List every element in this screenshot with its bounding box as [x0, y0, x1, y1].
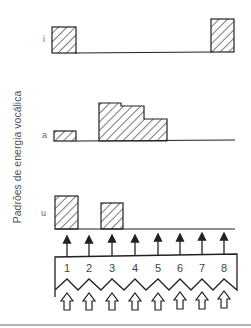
- channel-2: 2: [86, 262, 92, 274]
- input-arrow-8: [218, 291, 230, 308]
- channel-7: 7: [199, 262, 205, 274]
- row-a-bars-3-5: [99, 103, 167, 141]
- row-a-bar-1: [54, 131, 76, 141]
- input-arrow-3: [106, 293, 118, 310]
- channel-numbers: 1 2 3 4 5 6 7 8: [64, 262, 227, 274]
- channel-6: 6: [177, 262, 183, 274]
- channel-1: 1: [64, 262, 70, 274]
- channel-3: 3: [109, 262, 115, 274]
- vocalic-energy-diagram: 1 2 3 4 5 6 7 8: [0, 0, 251, 328]
- row-u-bar-3: [101, 203, 123, 229]
- row-i-chart: [52, 19, 234, 53]
- input-arrow-4: [129, 293, 141, 310]
- filter-bank-box: [55, 254, 237, 297]
- channel-8: 8: [221, 262, 227, 274]
- row-i-bar-1: [52, 27, 76, 53]
- channel-5: 5: [155, 262, 161, 274]
- output-arrows: [64, 233, 228, 257]
- input-arrows: [61, 291, 230, 310]
- row-u-bar-1: [55, 196, 78, 229]
- row-u-chart: [55, 196, 235, 229]
- row-a-chart: [54, 103, 235, 141]
- channel-4: 4: [132, 262, 138, 274]
- input-arrow-7: [196, 292, 208, 309]
- input-arrow-1: [61, 293, 73, 310]
- input-arrow-5: [152, 293, 164, 310]
- row-i-bar-8: [211, 19, 234, 52]
- row-i-baseline: [75, 52, 212, 53]
- input-arrow-2: [83, 293, 95, 310]
- input-arrow-6: [174, 292, 186, 309]
